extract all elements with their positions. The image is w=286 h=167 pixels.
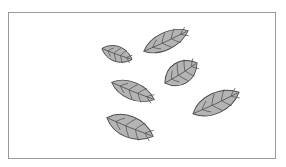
leaf-icon [159,53,203,92]
leaf-icon [103,108,157,146]
leaf-blade [159,53,203,92]
leaf-icon [140,23,192,59]
leaf-icon [99,41,134,66]
leaves-canvas [0,0,286,167]
leaf-icon [189,83,244,123]
leaf-blade [189,83,244,123]
leaf-icon [108,74,157,107]
